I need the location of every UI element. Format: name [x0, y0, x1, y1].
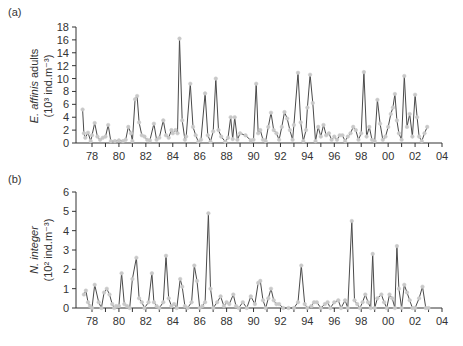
data-point	[310, 304, 314, 308]
data-point	[267, 125, 271, 129]
data-point	[264, 139, 268, 143]
data-point	[249, 295, 253, 299]
data-point	[226, 136, 230, 140]
data-point	[397, 132, 401, 136]
y-tick-label: 1	[63, 283, 69, 295]
data-point	[329, 306, 333, 310]
data-point	[252, 138, 256, 142]
data-point	[90, 134, 94, 138]
data-point	[97, 300, 101, 304]
y-tick-label: 14	[57, 47, 69, 59]
data-point	[311, 101, 315, 105]
data-point	[105, 287, 109, 291]
data-point	[237, 306, 241, 310]
data-point	[337, 299, 341, 303]
data-point	[413, 93, 417, 97]
data-point	[96, 135, 100, 139]
data-point	[421, 285, 425, 289]
panel-b-ylabel-species: N. integer	[28, 225, 40, 274]
data-point	[267, 297, 271, 301]
data-point	[306, 106, 310, 110]
y-tick-label: 8	[63, 85, 69, 97]
data-point	[259, 128, 263, 132]
data-point	[322, 123, 326, 127]
panel-b-ylabel-unit: (10² ind.m⁻³)	[42, 219, 54, 282]
data-point	[174, 128, 178, 132]
data-point	[256, 132, 260, 136]
x-tick-label: 84	[167, 150, 179, 162]
data-point	[425, 125, 429, 129]
x-tick-label: 96	[328, 315, 340, 327]
data-point	[217, 128, 221, 132]
data-point	[175, 306, 179, 310]
data-point	[341, 134, 345, 138]
data-point	[171, 132, 175, 136]
x-tick-label: 80	[113, 150, 125, 162]
data-point	[408, 112, 412, 116]
data-point	[167, 297, 171, 301]
data-point	[364, 293, 368, 297]
data-point	[203, 300, 207, 304]
data-point	[191, 125, 195, 129]
data-point	[135, 256, 139, 260]
data-point	[178, 37, 182, 41]
panel-b-series	[82, 212, 430, 310]
y-tick-label: 6	[63, 98, 69, 110]
y-tick-label: 4	[63, 111, 69, 123]
data-point	[81, 108, 85, 112]
y-tick-label: 2	[63, 124, 69, 136]
data-point	[148, 139, 152, 143]
data-point	[207, 212, 211, 216]
y-tick-label: 10	[57, 73, 69, 85]
data-point	[343, 139, 347, 143]
data-point	[131, 277, 135, 281]
data-point	[89, 139, 93, 143]
data-point	[209, 287, 213, 291]
data-point	[176, 132, 180, 136]
data-point	[244, 134, 248, 138]
x-tick-label: 86	[194, 315, 206, 327]
panel-a-ylabel-rest: adults	[28, 48, 40, 81]
data-point	[228, 302, 232, 306]
panel-a-chart: (a) E. affinis adults (10³ ind.m⁻³) 0246…	[8, 6, 448, 162]
data-point	[400, 138, 404, 142]
data-point	[378, 122, 382, 126]
data-point	[361, 300, 365, 304]
data-point	[104, 135, 108, 139]
data-point	[86, 300, 90, 304]
data-point	[131, 139, 135, 143]
x-tick-label: 78	[86, 315, 98, 327]
data-point	[358, 306, 362, 310]
data-point	[369, 306, 373, 310]
data-point	[164, 254, 168, 258]
data-point	[184, 135, 188, 139]
data-point	[376, 297, 380, 301]
data-point	[333, 300, 337, 304]
data-point	[186, 306, 190, 310]
data-point	[395, 244, 399, 248]
data-point	[120, 271, 124, 275]
data-point	[300, 264, 304, 268]
x-tick-label: 90	[247, 150, 259, 162]
data-point	[365, 135, 369, 139]
panel-a-label: (a)	[8, 6, 21, 18]
data-point	[393, 306, 397, 310]
data-point	[152, 300, 156, 304]
data-point	[427, 306, 431, 310]
data-point	[158, 136, 162, 140]
data-point	[333, 135, 337, 139]
data-point	[84, 289, 88, 293]
data-point	[211, 306, 215, 310]
x-tick-label: 94	[301, 150, 313, 162]
data-point	[316, 125, 320, 129]
data-point	[109, 139, 113, 143]
data-point	[413, 306, 417, 310]
data-point	[366, 300, 370, 304]
data-point	[389, 112, 393, 116]
x-tick-label: 84	[167, 315, 179, 327]
data-point	[299, 121, 303, 125]
data-point	[264, 306, 268, 310]
data-point	[117, 139, 121, 143]
data-point	[272, 299, 276, 303]
series-line	[83, 39, 428, 142]
